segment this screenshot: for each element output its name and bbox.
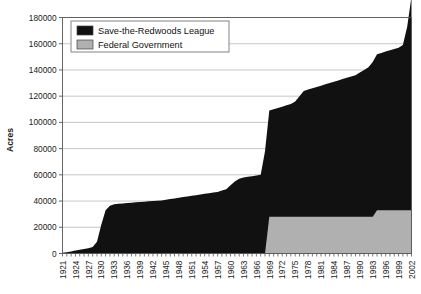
y-tick-label-100000: 100000	[29, 117, 57, 127]
y-tick-label-80000: 80000	[33, 144, 56, 154]
x-tick-label-1969: 1969	[265, 260, 275, 279]
x-tick-label-1957: 1957	[213, 260, 223, 279]
x-tick-label-1951: 1951	[187, 260, 197, 279]
x-tick-label-1987: 1987	[342, 260, 352, 279]
y-axis-title: Acres	[5, 128, 15, 152]
legend-label-federal-government: Federal Government	[98, 40, 183, 50]
x-tick-label-2002: 2002	[407, 260, 417, 279]
legend-label-save-the-redwoods-league: Save-the-Redwoods League	[98, 26, 214, 36]
x-tick-label-1954: 1954	[200, 260, 210, 279]
x-tick-label-1966: 1966	[252, 260, 262, 279]
x-tick-label-1981: 1981	[316, 260, 326, 279]
x-tick-label-1939: 1939	[135, 260, 145, 279]
x-tick-label-1990: 1990	[355, 260, 365, 279]
x-tick-label-1936: 1936	[122, 260, 132, 279]
x-tick-label-1927: 1927	[84, 260, 94, 279]
x-tick-label-1999: 1999	[394, 260, 404, 279]
y-tick-label-0: 0	[52, 249, 57, 259]
y-tick-label-180000: 180000	[29, 13, 57, 23]
x-tick-label-1930: 1930	[96, 260, 106, 279]
x-tick-label-1975: 1975	[290, 260, 300, 279]
y-tick-label-60000: 60000	[33, 170, 56, 180]
x-tick-label-1996: 1996	[381, 260, 391, 279]
chart-container: 0200004000060000800001000001200001400001…	[0, 0, 421, 294]
x-tick-label-1948: 1948	[174, 260, 184, 279]
x-tick-label-1945: 1945	[161, 260, 171, 279]
acres-area-chart: 0200004000060000800001000001200001400001…	[0, 0, 421, 294]
y-tick-label-160000: 160000	[29, 39, 57, 49]
x-tick-label-1921: 1921	[58, 260, 68, 279]
legend-swatch-federal-government	[77, 40, 93, 49]
x-tick-label-1960: 1960	[226, 260, 236, 279]
x-tick-label-1978: 1978	[303, 260, 313, 279]
x-tick-label-1924: 1924	[71, 260, 81, 279]
x-tick-label-1972: 1972	[277, 260, 287, 279]
y-tick-label-140000: 140000	[29, 65, 57, 75]
y-tick-label-40000: 40000	[33, 196, 56, 206]
x-tick-label-1993: 1993	[368, 260, 378, 279]
y-tick-label-20000: 20000	[33, 222, 56, 232]
x-tick-label-1933: 1933	[109, 260, 119, 279]
chart-legend: Save-the-Redwoods LeagueFederal Governme…	[71, 21, 229, 52]
legend-swatch-save-the-redwoods-league	[77, 26, 93, 35]
x-tick-label-1984: 1984	[329, 260, 339, 279]
y-tick-label-120000: 120000	[29, 91, 57, 101]
x-tick-label-1942: 1942	[148, 260, 158, 279]
x-tick-label-1963: 1963	[239, 260, 249, 279]
